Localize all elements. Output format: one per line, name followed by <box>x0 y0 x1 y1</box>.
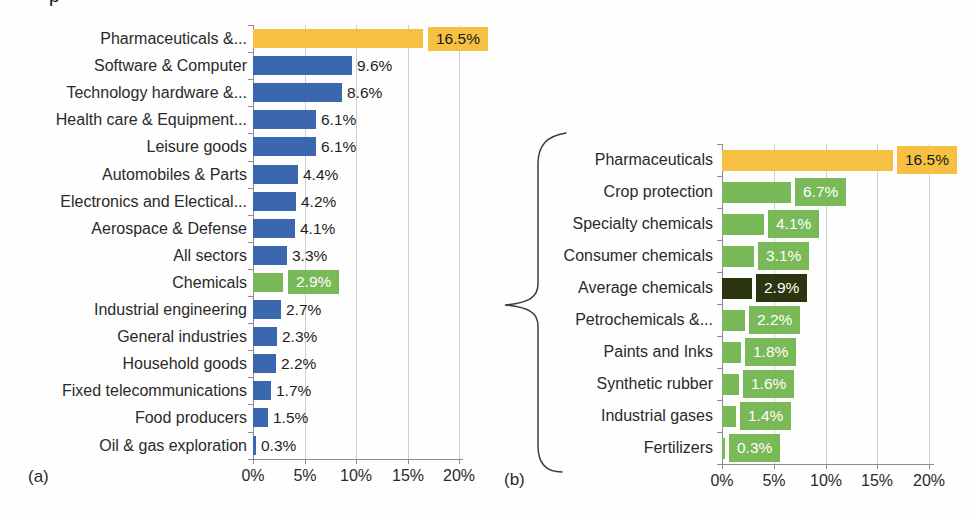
value-label-box: 16.5% <box>897 146 957 174</box>
axis-tick-label: 5% <box>746 472 802 490</box>
value-label-box: 1.6% <box>743 370 794 398</box>
value-label-box: 4.1% <box>768 210 819 238</box>
bar-industrial-gases <box>722 406 736 427</box>
category-tick <box>717 144 722 145</box>
gridline <box>877 144 878 464</box>
value-label-box: 3.1% <box>758 242 809 270</box>
axis-tick <box>929 464 930 469</box>
figure-canvas: p 0%5%10%15%20%Pharmaceuticals &...16.5%… <box>0 0 977 521</box>
axis-tick-label: 0% <box>694 472 750 490</box>
bar-petrochemicals <box>722 310 745 331</box>
value-label-box: 2.2% <box>749 306 800 334</box>
category-tick <box>717 240 722 241</box>
category-tick <box>717 304 722 305</box>
bar-specialty-chemicals <box>722 214 764 235</box>
axis-tick-label: 10% <box>798 472 854 490</box>
value-label-box: 1.4% <box>740 402 791 430</box>
panel-label-b: (b) <box>504 470 525 490</box>
value-label-box: 2.9% <box>756 274 807 302</box>
value-label-box: 0.3% <box>729 434 780 462</box>
bar-consumer-chemicals <box>722 246 754 267</box>
x-axis <box>722 464 934 465</box>
category-tick <box>717 432 722 433</box>
value-label-box: 1.8% <box>745 338 796 366</box>
category-tick <box>717 208 722 209</box>
panel-label-a: (a) <box>28 467 49 487</box>
category-tick <box>717 336 722 337</box>
category-tick <box>717 176 722 177</box>
bar-pharmaceuticals <box>722 150 893 171</box>
curly-brace-icon <box>492 122 572 482</box>
axis-tick-label: 15% <box>849 472 905 490</box>
gridline <box>929 144 930 464</box>
axis-tick <box>826 464 827 469</box>
bar-paints-and-inks <box>722 342 741 363</box>
value-label-box: 6.7% <box>795 178 846 206</box>
category-tick <box>717 400 722 401</box>
category-tick <box>717 272 722 273</box>
bar-synthetic-rubber <box>722 374 739 395</box>
axis-tick <box>774 464 775 469</box>
bar-crop-protection <box>722 182 791 203</box>
axis-tick <box>722 464 723 469</box>
bar-fertilizers <box>722 438 725 459</box>
category-tick <box>717 368 722 369</box>
axis-tick-label: 20% <box>901 472 957 490</box>
chart-b-chemical-subsectors: 0%5%10%15%20%Pharmaceuticals16.5%Crop pr… <box>0 0 977 521</box>
bar-average-chemicals <box>722 278 752 299</box>
axis-tick <box>877 464 878 469</box>
